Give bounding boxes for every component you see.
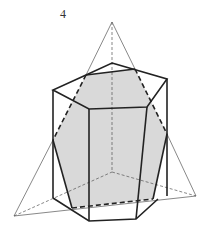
tetra-edge [14,140,53,216]
tetra-edge [86,22,112,75]
diagram [0,0,210,234]
shaded-cross-section [53,69,167,208]
tetra-edge [112,22,135,69]
tetra-edge [167,134,196,196]
